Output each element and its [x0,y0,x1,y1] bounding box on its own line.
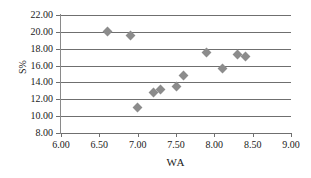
y-tick-mark [56,49,60,50]
y-tick-mark [56,82,60,83]
gridline [61,66,291,67]
y-tick-label: 20.00 [7,27,53,37]
gridline [61,116,291,117]
x-tick-mark [253,133,254,137]
x-tick-mark [138,133,139,137]
x-tick-mark [99,133,100,137]
data-point [179,71,189,81]
y-tick-label: 18.00 [7,44,53,54]
data-point [102,27,112,37]
plot-area [61,15,291,133]
y-tick-label: 10.00 [7,111,53,121]
y-tick-mark [56,32,60,33]
y-tick-label: 22.00 [7,10,53,20]
gridline [61,49,291,50]
gridline [61,32,291,33]
y-tick-mark [56,116,60,117]
y-tick-label: 14.00 [7,77,53,87]
x-tick-mark [214,133,215,137]
y-tick-mark [56,99,60,100]
y-tick-label: 12.00 [7,94,53,104]
data-point [133,103,143,113]
x-tick-mark [176,133,177,137]
y-tick-mark [56,66,60,67]
y-tick-mark [56,15,60,16]
scatter-chart: S% 8.0010.0012.0014.0016.0018.0020.0022.… [0,0,311,178]
x-tick-mark [61,133,62,137]
y-tick-label: 16.00 [7,61,53,71]
gridline [61,99,291,100]
y-tick-label: 8.00 [7,128,53,138]
x-axis-title: WA [61,156,291,168]
x-tick-label: 9.00 [269,140,311,150]
gridline [61,15,291,16]
y-tick-mark [56,133,60,134]
x-tick-mark [291,133,292,137]
